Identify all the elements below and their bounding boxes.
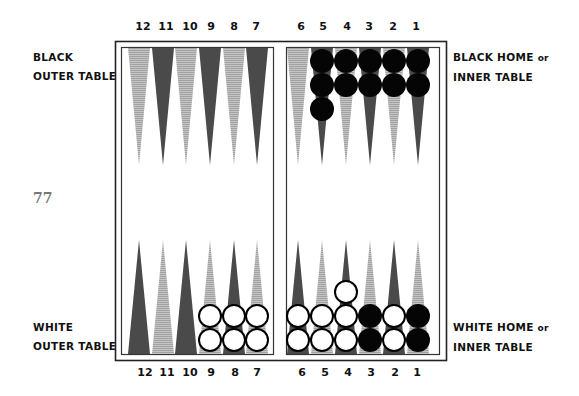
backgammon-board bbox=[0, 0, 579, 396]
black-checker[interactable] bbox=[406, 49, 430, 73]
black-checker[interactable] bbox=[358, 304, 382, 328]
black-checker[interactable] bbox=[382, 73, 406, 97]
black-checker[interactable] bbox=[406, 328, 430, 352]
white-checker[interactable] bbox=[311, 329, 333, 351]
white-checker[interactable] bbox=[223, 305, 245, 327]
white-checker[interactable] bbox=[383, 329, 405, 351]
black-checker[interactable] bbox=[406, 73, 430, 97]
black-checker[interactable] bbox=[334, 73, 358, 97]
white-checker[interactable] bbox=[199, 305, 221, 327]
black-checker[interactable] bbox=[358, 49, 382, 73]
white-checker[interactable] bbox=[311, 305, 333, 327]
white-checker[interactable] bbox=[287, 305, 309, 327]
white-checker[interactable] bbox=[246, 329, 268, 351]
black-checker[interactable] bbox=[310, 97, 334, 121]
white-checker[interactable] bbox=[223, 329, 245, 351]
black-checker[interactable] bbox=[406, 304, 430, 328]
white-checker[interactable] bbox=[335, 329, 357, 351]
black-checker[interactable] bbox=[382, 49, 406, 73]
white-checker[interactable] bbox=[287, 329, 309, 351]
white-checker[interactable] bbox=[335, 281, 357, 303]
white-checker[interactable] bbox=[199, 329, 221, 351]
white-checker[interactable] bbox=[335, 305, 357, 327]
black-checker[interactable] bbox=[310, 49, 334, 73]
black-checker[interactable] bbox=[334, 49, 358, 73]
black-checker[interactable] bbox=[310, 73, 334, 97]
black-checker[interactable] bbox=[358, 73, 382, 97]
white-checker[interactable] bbox=[383, 305, 405, 327]
black-checker[interactable] bbox=[358, 328, 382, 352]
white-checker[interactable] bbox=[246, 305, 268, 327]
